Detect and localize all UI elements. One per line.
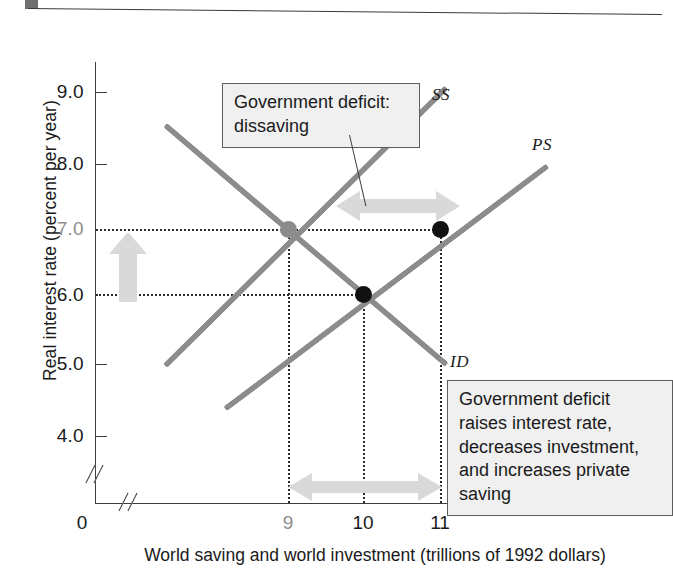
curve-id-line (163, 123, 449, 367)
x-axis-break-icon (118, 492, 144, 512)
y-axis-title: Real interest rate (percent per year) (40, 41, 61, 441)
y-tick-8 (95, 164, 107, 165)
header-divider (28, 8, 662, 15)
x-axis-title: World saving and world investment (trill… (95, 545, 655, 566)
private-saving-double-arrow-icon (288, 470, 442, 504)
x-tick-label-10: 10 (343, 512, 383, 534)
callout-deficit-effects: Government deficit raises interest rate,… (447, 380, 673, 516)
marker-ps-id-equilibrium (355, 286, 372, 303)
guide-v-9 (288, 229, 290, 503)
guide-h-7-percent (96, 229, 442, 231)
effects-line-3: decreases investment, (459, 436, 662, 460)
effects-line-1: Government deficit (459, 388, 662, 412)
x-tick-label-9: 9 (268, 512, 308, 534)
marker-ss-id-equilibrium (280, 221, 297, 238)
marker-ps-at-7-percent (432, 221, 449, 238)
interest-rate-rise-arrow-icon (107, 232, 149, 302)
x-tick-label-0: 0 (62, 512, 102, 534)
curve-label-ss: SS (432, 85, 450, 105)
callout-deficit-line-2: dissaving (234, 115, 409, 139)
curve-label-ps: PS (532, 135, 552, 155)
guide-v-11 (440, 229, 442, 503)
effects-line-4: and increases private (459, 459, 662, 483)
effects-line-5: saving (459, 483, 662, 507)
callout-deficit-dissaving: Government deficit: dissaving (222, 83, 420, 148)
y-tick-9 (95, 92, 107, 93)
curve-label-id: ID (450, 352, 469, 372)
callout-deficit-line-1: Government deficit: (234, 91, 409, 115)
effects-line-2: raises interest rate, (459, 412, 662, 436)
deficit-width-double-arrow-icon (336, 188, 460, 224)
y-axis-break-icon (86, 462, 106, 488)
y-tick-4 (95, 436, 107, 437)
y-tick-5 (95, 364, 107, 365)
